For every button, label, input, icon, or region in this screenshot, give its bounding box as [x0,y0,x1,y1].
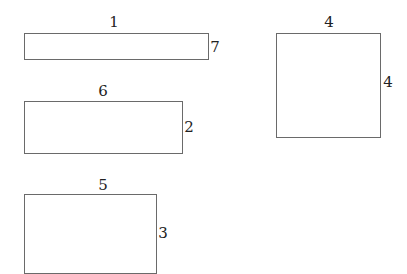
rect-c [24,194,157,274]
rect-a [24,33,209,60]
rect-c-width-label: 5 [98,178,108,193]
rect-b-width-label: 6 [98,84,108,99]
rect-b [24,101,183,154]
rect-d-width-label: 4 [324,15,334,30]
rect-b-height-label: 2 [184,120,194,135]
rect-c-height-label: 3 [158,226,168,241]
rect-a-width-label: 1 [109,15,119,30]
rect-d [276,33,381,138]
rect-a-height-label: 7 [210,40,220,55]
rect-d-height-label: 4 [383,75,393,90]
